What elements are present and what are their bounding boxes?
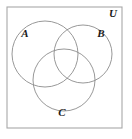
set-c-label: C bbox=[58, 106, 66, 118]
set-a-label: A bbox=[20, 27, 28, 39]
venn-diagram-figure: U A B C bbox=[0, 0, 132, 139]
set-b-label: B bbox=[96, 27, 104, 39]
venn-diagram-canvas: U A B C bbox=[0, 0, 132, 139]
universal-set-label: U bbox=[109, 7, 118, 19]
